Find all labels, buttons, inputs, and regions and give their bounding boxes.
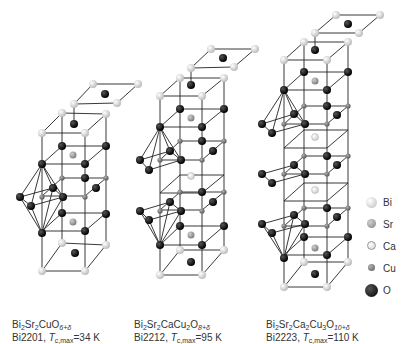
legend-label: Bi: [383, 197, 392, 209]
o-atom-icon: [365, 284, 378, 297]
tc-bi2212: Bi2212, Tc,max=95 K: [134, 331, 222, 344]
legend-label: Cu: [383, 263, 396, 275]
formula-bi2212: Bi2Sr2CaCu2O8+δ: [134, 318, 222, 331]
bi2201-structure: [20, 84, 138, 271]
tc-bi2201: Bi2201, Tc,max=34 K: [12, 331, 100, 344]
legend-label: Sr: [383, 219, 393, 231]
caption-bi2223: Bi2Sr2Ca2Cu3O10+δ Bi2223, Tc,max=110 K: [266, 318, 359, 344]
bi-atom-icon: [366, 197, 377, 208]
bi2212-atoms: [136, 45, 259, 279]
legend-label: Ca: [383, 241, 396, 253]
bi2223-structure: [262, 15, 380, 287]
ca-atom-icon: [367, 241, 376, 250]
cu-atom-icon: [368, 264, 375, 271]
caption-bi2201: Bi2Sr2CuO6+δ Bi2201, Tc,max=34 K: [12, 318, 100, 344]
formula-bi2201: Bi2Sr2CuO6+δ: [12, 318, 100, 331]
tc-bi2223: Bi2223, Tc,max=110 K: [266, 331, 359, 344]
legend-label: O: [383, 285, 391, 297]
formula-bi2223: Bi2Sr2Ca2Cu3O10+δ: [266, 318, 359, 331]
bi2201-atoms: [16, 80, 142, 275]
bi2212-structure: [140, 49, 255, 275]
caption-bi2212: Bi2Sr2CaCu2O8+δ Bi2212, Tc,max=95 K: [134, 318, 222, 344]
bi2223-atoms: [258, 11, 384, 291]
sr-atom-icon: [367, 219, 376, 228]
